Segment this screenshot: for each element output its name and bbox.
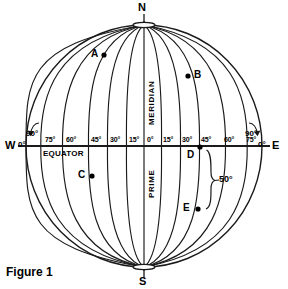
west-edge-degree-label: 0° bbox=[18, 141, 26, 149]
angle-brace-group bbox=[206, 150, 219, 209]
globe-graticule-svg bbox=[0, 0, 288, 289]
tick-west-75: 75° bbox=[45, 136, 55, 143]
north-pole-cap bbox=[133, 22, 155, 27]
north-pole-label: N bbox=[138, 2, 146, 13]
prime-label: PRIME bbox=[148, 170, 156, 198]
angle-brace-de bbox=[206, 150, 215, 209]
tick-east-15: 15° bbox=[163, 136, 173, 143]
point-marker-d bbox=[197, 144, 202, 149]
point-label-d: D bbox=[187, 150, 194, 160]
west-90-degree-label: 90° bbox=[26, 130, 38, 138]
point-markers-group bbox=[89, 52, 202, 211]
point-label-b: B bbox=[194, 70, 201, 80]
figure-caption: Figure 1 bbox=[6, 266, 53, 278]
tick-west-30: 30° bbox=[110, 136, 120, 143]
cardinal-east-label: E bbox=[272, 140, 279, 151]
tick-west-15: 15° bbox=[129, 136, 139, 143]
tick-prime-0: 0° bbox=[147, 136, 153, 143]
point-marker-b bbox=[185, 73, 190, 78]
meridian-label: MERIDIAN bbox=[148, 81, 156, 125]
point-marker-a bbox=[101, 52, 106, 57]
south-pole-label: S bbox=[139, 276, 146, 287]
equator-label: EQUATOR bbox=[43, 150, 84, 158]
tick-east-75: 75° bbox=[246, 136, 256, 143]
tick-east-30: 30° bbox=[182, 136, 192, 143]
tick-east-45: 45° bbox=[201, 136, 211, 143]
arc-angle-label: 50° bbox=[219, 175, 233, 184]
point-marker-c bbox=[89, 173, 94, 178]
east-edge-degree-label: 0° bbox=[258, 141, 266, 149]
point-label-c: C bbox=[78, 170, 85, 180]
tick-west-45: 45° bbox=[91, 136, 101, 143]
south-pole-cap bbox=[133, 264, 155, 269]
point-label-a: A bbox=[91, 49, 98, 59]
figure-container: N S W 0° 0° E 90° 90° 75° 60° 45° 30° 15… bbox=[0, 0, 288, 289]
tick-east-60: 60° bbox=[224, 136, 234, 143]
cardinal-west-label: W bbox=[5, 140, 15, 151]
point-marker-e bbox=[195, 206, 200, 211]
point-label-e: E bbox=[183, 203, 190, 213]
tick-west-60: 60° bbox=[66, 136, 76, 143]
